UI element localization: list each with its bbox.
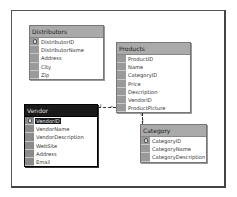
field-name: VendorID [126,97,152,103]
row-selector[interactable] [141,137,150,145]
row-selector[interactable] [141,153,150,161]
row-selector[interactable] [117,104,126,112]
infinity-icon: ∞ [110,105,113,109]
table-row[interactable]: Zip [30,71,103,79]
table-row[interactable]: Name [117,63,190,71]
table-title[interactable]: Distributors [30,26,103,38]
table-row[interactable]: Description [117,88,190,96]
table-vendor[interactable]: Vendor VendorID VendorName VendorDescrip… [24,104,98,167]
row-selector[interactable] [25,117,34,125]
table-row[interactable]: VendorName [25,125,97,133]
row-selector[interactable] [30,38,39,46]
table-row[interactable]: Email [25,158,97,166]
field-name: CategoryID [126,72,157,78]
row-selector[interactable] [30,54,39,62]
table-row[interactable]: CategoryDescription [141,153,206,161]
table-row[interactable]: DistributorID [30,38,103,46]
row-selector[interactable] [117,55,126,63]
table-row[interactable]: Price [117,80,190,88]
field-name: Price [126,81,141,87]
row-selector[interactable] [25,133,34,141]
table-category[interactable]: Category CategoryID CategoryName Categor… [140,124,207,163]
field-name: CategoryName [150,146,191,152]
primary-key-icon [33,39,37,44]
infinity-icon: ∞ [140,113,143,117]
table-row[interactable]: ProductPicture [117,104,190,112]
table-row[interactable]: ProductID [117,55,190,63]
table-row[interactable]: CategoryName [141,145,206,153]
field-name: Email [34,159,50,165]
field-name: Address [39,55,62,61]
row-selector[interactable] [30,71,39,79]
primary-key-icon [144,138,148,143]
row-selector[interactable] [117,63,126,71]
key-icon: ⚷ [141,119,144,123]
table-row[interactable]: VendorID [117,96,190,104]
field-name: VendorDescription [34,134,84,140]
table-row[interactable]: VendorDescription [25,133,97,141]
table-row[interactable]: City [30,63,103,71]
row-selector[interactable] [25,150,34,158]
field-name: CategoryDescription [150,154,205,160]
table-distributors[interactable]: Distributors DistributorID DistributorNa… [29,25,104,80]
field-name: Zip [39,72,49,78]
field-name: Description [126,89,158,95]
row-selector[interactable] [25,142,34,150]
table-title[interactable]: Vendor [25,105,97,117]
row-selector[interactable] [25,125,34,133]
row-selector[interactable] [30,46,39,54]
table-title[interactable]: Category [141,125,206,137]
field-name: ProductID [126,56,153,62]
table-row[interactable]: CategoryID [141,137,206,145]
table-row[interactable]: Address [30,54,103,62]
table-row[interactable]: WebSite [25,142,97,150]
table-row[interactable]: CategoryID [117,71,190,79]
field-name: ProductPicture [126,105,166,111]
row-selector[interactable] [141,145,150,153]
row-selector[interactable] [117,80,126,88]
table-row[interactable]: DistributorName [30,46,103,54]
field-name: VendorName [34,126,70,132]
field-name: WebSite [34,143,57,149]
field-name: City [39,64,51,70]
table-row[interactable]: VendorID [25,117,97,125]
row-selector[interactable] [117,71,126,79]
field-name: DistributorID [39,39,74,45]
field-name: Name [126,64,143,70]
field-name: CategoryID [150,138,181,144]
table-row[interactable]: Address [25,150,97,158]
key-icon: ⚷ [99,104,102,108]
field-name: Address [34,151,57,157]
row-selector[interactable] [25,158,34,166]
row-selector[interactable] [30,63,39,71]
table-products[interactable]: Products ProductID Name CategoryID Price… [116,42,191,113]
row-selector[interactable] [117,96,126,104]
primary-key-icon [28,118,32,123]
row-selector[interactable] [117,88,126,96]
field-name: VendorID [35,118,61,124]
field-name: DistributorName [39,47,84,53]
table-title[interactable]: Products [117,43,190,55]
